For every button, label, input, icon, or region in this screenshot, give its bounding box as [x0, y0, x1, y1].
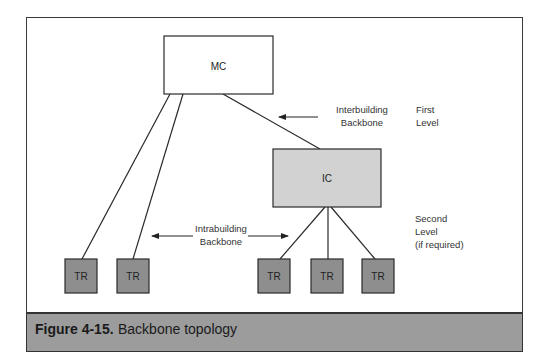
interbuilding-annotation: Interbuilding Backbone: [279, 104, 388, 128]
second-level-annotation: Second Level (if required): [415, 213, 464, 250]
first-level-line2: Level: [416, 117, 439, 128]
mc-node: MC: [164, 36, 273, 94]
tr-label: TR: [267, 271, 280, 282]
ic-label: IC: [322, 173, 332, 184]
intrabuilding-annotation: Intrabuilding Backbone: [152, 223, 288, 247]
second-level-line1: Second: [415, 213, 447, 224]
tr-node-3: TR: [258, 259, 290, 293]
tr-node-5: TR: [362, 259, 394, 293]
tr-node-4: TR: [311, 259, 343, 293]
figure-caption: Figure 4-15. Backbone topology: [26, 312, 523, 352]
figure-number: Figure 4-15.: [35, 321, 114, 337]
second-level-line2: Level: [415, 226, 438, 237]
tr-label: TR: [320, 271, 333, 282]
edge-ic-tr5: [331, 207, 375, 259]
tr-label: TR: [126, 271, 139, 282]
tr-label: TR: [74, 271, 87, 282]
edge-mc-tr2: [133, 94, 183, 259]
ic-node: IC: [273, 149, 381, 207]
tr-node-1: TR: [65, 259, 97, 293]
tr-node-2: TR: [117, 259, 149, 293]
edge-ic-tr3: [280, 207, 325, 259]
edge-mc-ic: [223, 94, 320, 149]
first-level-annotation: First Level: [416, 104, 439, 128]
first-level-line1: First: [416, 104, 435, 115]
figure-title: Backbone topology: [118, 321, 237, 337]
second-level-line3: (if required): [415, 239, 464, 250]
backbone-topology-diagram: MC IC TR TR TR TR TR Interbuilding Backb…: [0, 0, 552, 364]
mc-label: MC: [211, 61, 227, 72]
intrabuilding-line1: Intrabuilding: [195, 223, 247, 234]
intrabuilding-line2: Backbone: [200, 236, 242, 247]
tr-label: TR: [371, 271, 384, 282]
interbuilding-line2: Backbone: [341, 117, 383, 128]
interbuilding-line1: Interbuilding: [336, 104, 388, 115]
edge-mc-tr1: [82, 94, 170, 259]
